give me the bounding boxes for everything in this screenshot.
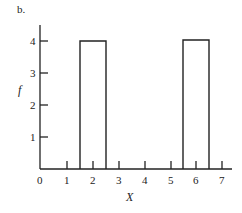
x-axis-label: X: [125, 190, 134, 204]
bar-x6: [183, 40, 209, 169]
bar-x2: [80, 41, 106, 169]
x-tick-label: 1: [64, 174, 70, 186]
x-tick-label: 2: [90, 174, 96, 186]
panel-label: b.: [17, 3, 26, 15]
x-tick-label: 5: [168, 174, 174, 186]
y-tick-label: 4: [30, 35, 36, 47]
y-axis-label: f: [18, 83, 23, 97]
x-tick-label: 4: [142, 174, 148, 186]
histogram-chart: b. 4 3 2 1 0 1 2 3 4 5 6 7 f X: [0, 0, 242, 213]
x-tick-label: 6: [193, 174, 199, 186]
y-ticks: [40, 41, 48, 137]
x-tick-label: 3: [116, 174, 122, 186]
x-ticks: [67, 161, 222, 169]
y-tick-label: 3: [30, 67, 36, 79]
x-tick-label: 7: [219, 174, 225, 186]
x-tick-label: 0: [37, 174, 43, 186]
y-tick-label: 2: [30, 99, 36, 111]
y-tick-label: 1: [30, 131, 36, 143]
